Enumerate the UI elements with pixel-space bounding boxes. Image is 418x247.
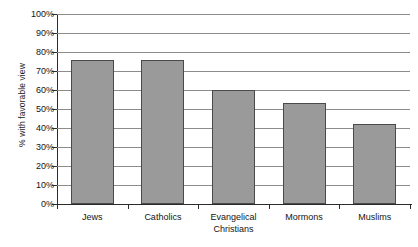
y-axis-tick-labels: 0%10%20%30%40%50%60%70%80%90%100% xyxy=(18,14,54,204)
x-axis-tick-label: Muslims xyxy=(339,212,410,224)
x-axis-tick-label-line: Muslims xyxy=(358,212,391,222)
y-axis-tick-label: 30% xyxy=(18,143,54,152)
x-axis-tick-mark xyxy=(410,204,411,209)
y-axis-tick-label: 70% xyxy=(18,67,54,76)
x-axis-tick-mark xyxy=(128,204,129,209)
x-axis-tick-label: EvangelicalChristians xyxy=(198,212,269,235)
y-axis-tick-label: 80% xyxy=(18,48,54,57)
x-axis-tick-mark xyxy=(339,204,340,209)
y-axis-tick-label: 10% xyxy=(18,181,54,190)
x-axis-tick-mark xyxy=(57,204,58,209)
bar xyxy=(71,60,114,204)
plot-area xyxy=(57,14,410,204)
x-axis-tick-mark xyxy=(198,204,199,209)
bar xyxy=(141,60,184,204)
y-axis-tick-label: 40% xyxy=(18,124,54,133)
x-axis-tick-label: Catholics xyxy=(128,212,199,224)
x-axis-tick-labels: JewsCatholicsEvangelicalChristiansMormon… xyxy=(57,212,410,246)
y-axis-tick-label: 20% xyxy=(18,162,54,171)
bars-layer xyxy=(57,14,410,204)
x-axis-line xyxy=(52,204,412,205)
bar-chart: % with favorable view 0%10%20%30%40%50%6… xyxy=(0,0,418,247)
x-axis-tick-label: Mormons xyxy=(269,212,340,224)
y-axis-tick-label: 90% xyxy=(18,29,54,38)
x-axis-tick-label-line: Mormons xyxy=(285,212,323,222)
bar xyxy=(283,103,326,204)
bar xyxy=(353,124,396,204)
y-axis-tick-label: 60% xyxy=(18,86,54,95)
x-axis-tick-label: Jews xyxy=(57,212,128,224)
x-axis-tick-label-line: Jews xyxy=(82,212,103,222)
x-axis-tick-label-line: Evangelical xyxy=(210,212,256,222)
x-axis-tick-label-line: Catholics xyxy=(144,212,181,222)
y-axis-tick-label: 100% xyxy=(18,10,54,19)
x-axis-tick-label-line: Christians xyxy=(198,224,269,236)
y-axis-tick-label: 50% xyxy=(18,105,54,114)
y-axis-tick-label: 0% xyxy=(18,200,54,209)
bar xyxy=(212,90,255,204)
x-axis-tick-mark xyxy=(269,204,270,209)
